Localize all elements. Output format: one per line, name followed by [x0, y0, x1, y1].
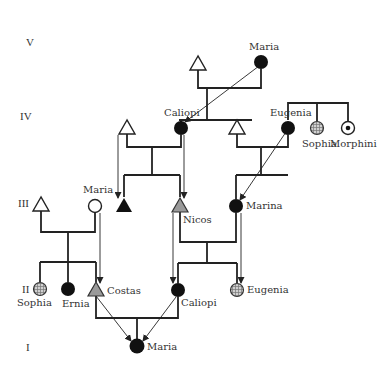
- label-ii-eugenia: Eugenia: [247, 284, 289, 295]
- label-iii-marina: Marina: [246, 200, 283, 211]
- female-symbol-ii-sophia-hatched: [34, 283, 47, 296]
- female-symbol-iii-marina-affected: [229, 199, 243, 213]
- male-symbol-iii-left-unaffected: [33, 197, 49, 211]
- female-symbol-ii-ernia-affected: [61, 282, 75, 296]
- generation-label-v: V: [26, 36, 34, 48]
- label-iii-maria: Maria: [83, 184, 113, 195]
- female-symbol-ii-caliopi-affected: [171, 283, 185, 297]
- label-i-maria: Maria: [147, 341, 177, 352]
- female-symbol-iv-caliopi-affected: [174, 121, 188, 135]
- male-symbol-v-unaffected: [190, 56, 206, 70]
- label-ii-ernia: Ernia: [62, 298, 90, 309]
- generation-label-iv: IV: [20, 110, 32, 122]
- female-symbol-ii-eugenia-hatched: [231, 284, 244, 297]
- label-iv-morphini: Morphini: [330, 138, 377, 149]
- female-symbol-v-maria-affected: [254, 55, 268, 69]
- generation-label-i: I: [26, 341, 30, 353]
- male-symbol-iii-affected: [116, 198, 132, 212]
- female-symbol-iv-eugenia-affected: [281, 121, 295, 135]
- female-symbol-i-maria-affected: [130, 339, 145, 354]
- label-iv-eugenia: Eugenia: [270, 107, 312, 118]
- label-iv-caliopi: Caliopi: [164, 107, 200, 118]
- male-symbol-ii-costas-gray: [88, 282, 104, 296]
- female-symbol-iv-sophia-hatched: [311, 122, 324, 135]
- pedigree-diagram: V IV III II I: [0, 0, 388, 372]
- label-ii-costas: Costas: [107, 285, 141, 296]
- label-iii-nicos: Nicos: [183, 214, 212, 225]
- label-ii-caliopi: Caliopi: [181, 297, 217, 308]
- male-symbol-iv-left-unaffected: [119, 120, 135, 134]
- carrier-dot-icon: [346, 126, 351, 131]
- female-symbol-iii-maria-unaffected: [89, 200, 102, 213]
- generation-label-iii: III: [18, 197, 29, 209]
- generation-label-ii: II: [22, 283, 30, 295]
- male-symbol-iii-nicos-gray: [172, 198, 188, 212]
- male-symbol-iv-right-unaffected: [229, 120, 245, 134]
- label-ii-sophia: Sophia: [17, 297, 52, 308]
- label-v-maria: Maria: [249, 41, 279, 52]
